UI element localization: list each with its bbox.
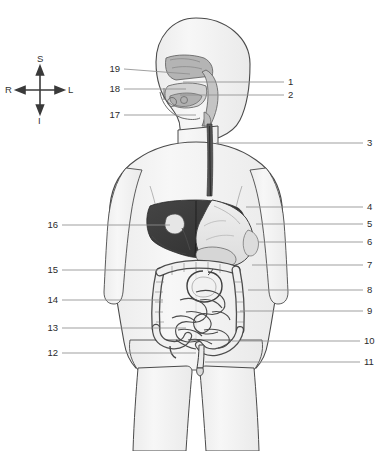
- compass-label-left: L: [68, 85, 73, 95]
- label-number-17[interactable]: 17: [100, 110, 120, 120]
- anus: [197, 368, 204, 376]
- compass-label-superior: S: [37, 54, 43, 64]
- esophagus: [207, 124, 213, 196]
- label-number-16[interactable]: 16: [38, 220, 58, 230]
- label-number-3[interactable]: 3: [367, 138, 372, 148]
- label-number-7[interactable]: 7: [367, 260, 372, 270]
- label-number-9[interactable]: 9: [367, 306, 372, 316]
- label-number-11[interactable]: 11: [364, 357, 374, 367]
- label-number-5[interactable]: 5: [367, 219, 372, 229]
- label-number-13[interactable]: 13: [38, 323, 58, 333]
- label-number-14[interactable]: 14: [38, 295, 58, 305]
- orientation-compass: [16, 66, 64, 114]
- compass-arrow-superior: [37, 66, 44, 75]
- compass-arrow-left: [55, 87, 64, 94]
- label-number-19[interactable]: 19: [100, 64, 120, 74]
- label-number-10[interactable]: 10: [364, 336, 375, 346]
- compass-arrow-right: [16, 87, 25, 94]
- diagram-canvas: 1 2 3 4 5 6 7 8 9 10 11 12 13 14 15 16 1…: [0, 0, 390, 451]
- label-number-1[interactable]: 1: [288, 77, 293, 87]
- label-number-6[interactable]: 6: [367, 237, 372, 247]
- label-number-2[interactable]: 2: [288, 90, 293, 100]
- compass-arrow-inferior: [37, 105, 44, 114]
- label-number-18[interactable]: 18: [100, 84, 120, 94]
- label-number-4[interactable]: 4: [367, 202, 372, 212]
- label-number-8[interactable]: 8: [367, 285, 372, 295]
- label-number-15[interactable]: 15: [38, 265, 58, 275]
- label-number-12[interactable]: 12: [38, 348, 58, 358]
- compass-label-right: R: [5, 85, 12, 95]
- anatomy-figure: [0, 0, 390, 451]
- compass-label-inferior: I: [38, 116, 41, 126]
